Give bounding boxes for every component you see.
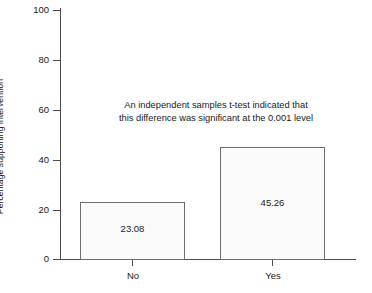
bar-chart: Percentage supporting intervention 100 8… xyxy=(0,0,372,293)
y-tick-20 xyxy=(53,210,60,211)
annotation-line-2: this difference was significant at the 0… xyxy=(96,112,336,125)
x-tick-label-yes: Yes xyxy=(233,270,313,281)
x-tick-yes xyxy=(272,260,273,266)
y-tick-80 xyxy=(53,60,60,61)
y-tick-label-100: 100 xyxy=(0,5,49,15)
x-tick-label-no: No xyxy=(93,270,173,281)
y-tick-label-20: 20 xyxy=(0,205,49,215)
y-tick-label-40: 40 xyxy=(0,155,49,165)
y-tick-label-60: 60 xyxy=(0,105,49,115)
annotation-line-1: An independent samples t-test indicated … xyxy=(96,99,336,112)
y-tick-label-0: 0 xyxy=(0,254,49,264)
bar-value-no: 23.08 xyxy=(80,223,185,234)
y-tick-60 xyxy=(53,110,60,111)
y-axis-line xyxy=(60,8,61,260)
y-tick-label-80: 80 xyxy=(0,55,49,65)
x-tick-no xyxy=(132,260,133,266)
y-tick-40 xyxy=(53,160,60,161)
significance-annotation: An independent samples t-test indicated … xyxy=(96,99,336,125)
bar-value-yes: 45.26 xyxy=(220,197,325,208)
y-tick-0 xyxy=(53,259,60,260)
y-axis-title: Percentage supporting intervention xyxy=(0,0,18,293)
y-tick-100 xyxy=(53,10,60,11)
